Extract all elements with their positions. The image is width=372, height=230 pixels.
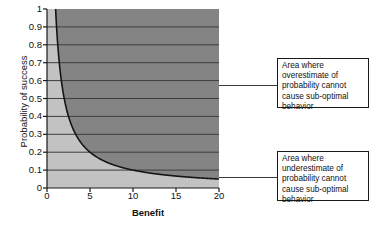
x-tick-label: 15 <box>161 190 191 201</box>
underestimate-annotation-box: Area where underestimate of probability … <box>277 151 369 201</box>
x-axis-title: Benefit <box>48 207 248 218</box>
x-tick-label: 0 <box>32 190 62 201</box>
overestimate-leader-line <box>219 85 277 86</box>
underestimate-leader-line <box>219 177 277 178</box>
y-axis-title: Probability of success <box>18 32 29 172</box>
overestimate-annotation-box: Area where overestimate of probability c… <box>277 58 369 108</box>
x-tick-label: 20 <box>204 190 234 201</box>
x-tick-label: 5 <box>75 190 105 201</box>
x-tick-label: 10 <box>118 190 148 201</box>
chart-figure: 10.90.80.70.60.50.40.30.20.10 05101520 P… <box>0 0 372 230</box>
